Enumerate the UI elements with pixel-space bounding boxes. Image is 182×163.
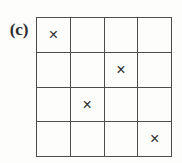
cell-content-r1c3 (105, 18, 138, 52)
cell-content-r1c2 (71, 18, 104, 52)
cell-content-r4c3 (105, 122, 138, 156)
grid-cell-r3c1[interactable] (37, 87, 71, 122)
cell-content-r4c2 (71, 122, 104, 156)
grid-cell-r2c3[interactable]: × (104, 52, 138, 87)
grid-cell-r3c2[interactable]: × (70, 87, 104, 122)
grid-cell-r1c4[interactable] (138, 18, 172, 53)
grid-cell-r2c2[interactable] (70, 52, 104, 87)
grid-row: × (37, 18, 172, 53)
grid-cell-r1c2[interactable] (70, 18, 104, 53)
cell-content-r4c1 (37, 122, 70, 156)
grid-cell-r1c1[interactable]: × (37, 18, 71, 53)
grid-row: × (37, 87, 172, 122)
cross-mark-r3c2: × (71, 88, 104, 122)
grid-cell-r1c3[interactable] (104, 18, 138, 53)
cell-content-r2c2 (71, 53, 104, 87)
cross-mark-r2c3: × (105, 53, 138, 87)
grid-row: × (37, 52, 172, 87)
grid-container: × (36, 17, 168, 153)
grid-row: × (37, 122, 172, 157)
grid-table: × (36, 17, 172, 157)
grid-cell-r4c1[interactable] (37, 122, 71, 157)
grid-cell-r2c4[interactable] (138, 52, 172, 87)
cell-content-r3c4 (138, 88, 171, 122)
grid-cell-r4c3[interactable] (104, 122, 138, 157)
grid-cell-r2c1[interactable] (37, 52, 71, 87)
grid-cell-r3c4[interactable] (138, 87, 172, 122)
cell-content-r1c4 (138, 18, 171, 52)
grid-cell-r4c2[interactable] (70, 122, 104, 157)
cross-mark-r1c1: × (37, 18, 70, 52)
figure-panel-c: (c) × (0, 0, 182, 163)
panel-label: (c) (3, 19, 35, 41)
cell-content-r2c4 (138, 53, 171, 87)
grid-cell-r3c3[interactable] (104, 87, 138, 122)
cross-mark-r4c4: × (138, 122, 171, 156)
cell-content-r3c1 (37, 88, 70, 122)
grid-cell-r4c4[interactable]: × (138, 122, 172, 157)
cell-content-r2c1 (37, 53, 70, 87)
cell-content-r3c3 (105, 88, 138, 122)
